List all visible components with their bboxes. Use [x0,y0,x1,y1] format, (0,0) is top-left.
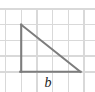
triangle-on-grid-figure: b [0,0,95,92]
base-length-label: b [45,75,52,90]
figure-container: b [0,0,95,92]
